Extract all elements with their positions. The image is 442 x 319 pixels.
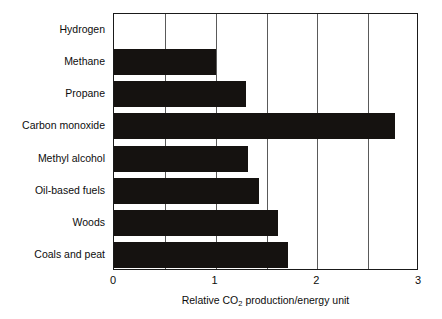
bar <box>114 210 278 236</box>
bar-row <box>114 207 419 239</box>
category-label: Methane <box>0 55 105 67</box>
category-label: Woods <box>0 216 105 228</box>
x-tick-label: 0 <box>98 274 128 287</box>
x-axis-title-subscript: 2 <box>238 299 242 308</box>
x-axis-title-before: Relative CO <box>182 294 239 306</box>
bar-row <box>114 78 419 110</box>
bar-row <box>114 110 419 142</box>
bar-row <box>114 46 419 78</box>
x-tick-label: 1 <box>200 274 230 287</box>
plot-area <box>113 13 418 270</box>
bar <box>114 242 288 268</box>
bar <box>114 49 216 75</box>
category-axis-labels: HydrogenMethanePropaneCarbon monoxideMet… <box>0 13 113 270</box>
bar <box>114 146 248 172</box>
bar <box>114 81 246 107</box>
co2-production-bar-chart: HydrogenMethanePropaneCarbon monoxideMet… <box>0 0 442 319</box>
bar-row <box>114 143 419 175</box>
bar-row <box>114 14 419 46</box>
category-label: Oil-based fuels <box>0 184 105 196</box>
bar-row <box>114 175 419 207</box>
x-tick-label: 2 <box>301 274 331 287</box>
x-axis-title-after: production/energy unit <box>242 294 349 306</box>
category-label: Methyl alcohol <box>0 152 105 164</box>
category-label: Carbon monoxide <box>0 119 105 131</box>
bar <box>114 113 395 139</box>
category-label: Coals and peat <box>0 248 105 260</box>
x-axis-title: Relative CO2 production/energy unit <box>113 294 418 308</box>
category-label: Propane <box>0 87 105 99</box>
x-tick-label: 3 <box>403 274 433 287</box>
bar-row <box>114 239 419 271</box>
category-label: Hydrogen <box>0 23 105 35</box>
bar <box>114 178 259 204</box>
